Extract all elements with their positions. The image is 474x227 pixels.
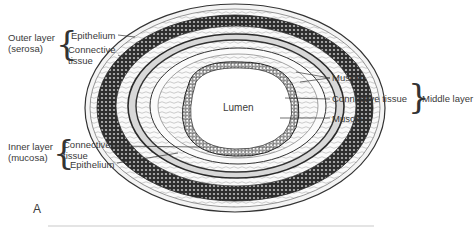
- inner-connective-label: Connective tissue: [63, 139, 111, 161]
- inner-layer-label: Inner layer (mucosa): [8, 141, 53, 163]
- connective-tissue-label: Connective tissue: [332, 93, 407, 104]
- outer-epithelium-label: Epithelium: [71, 30, 115, 41]
- muscle-label-inner: Muscle: [332, 113, 362, 124]
- outer-layer-subname: (serosa): [8, 43, 55, 54]
- outer-layer-label: Outer layer (serosa): [8, 32, 55, 54]
- outer-layer-name: Outer layer: [8, 32, 55, 43]
- outer-connective-line1: Connective: [68, 44, 116, 55]
- outer-connective-label: Connective tissue: [68, 44, 116, 66]
- lumen-label: Lumen: [223, 102, 254, 113]
- inner-connective-line1: Connective: [63, 139, 111, 150]
- inner-epithelium-label: Epithelium: [70, 159, 114, 170]
- muscle-label-outer: Muscle: [332, 72, 362, 83]
- panel-letter: A: [33, 204, 41, 215]
- outer-connective-line2: tissue: [68, 55, 116, 66]
- inner-layer-name: Inner layer: [8, 141, 53, 152]
- middle-layer-label: Middle layer: [422, 93, 473, 104]
- inner-layer-subname: (mucosa): [8, 152, 53, 163]
- bottom-divider: [48, 225, 374, 227]
